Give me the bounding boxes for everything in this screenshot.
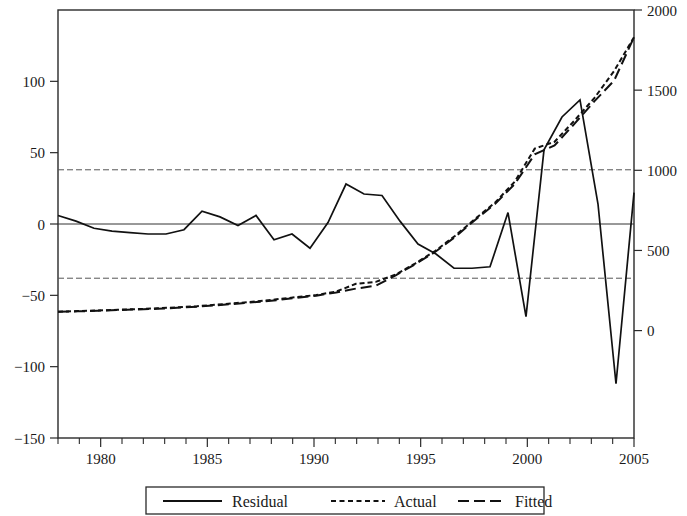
x-tick-label: 2000: [512, 451, 542, 467]
x-tick-label: 1985: [192, 451, 222, 467]
left-tick-label: −150: [14, 431, 45, 447]
right-tick-label: 0: [647, 323, 655, 339]
legend-label-actual: Actual: [394, 493, 437, 510]
x-axis-ticks: 198019851990199520002005: [58, 438, 649, 467]
x-tick-label: 1990: [299, 451, 329, 467]
left-tick-label: 50: [30, 145, 45, 161]
right-tick-label: 1000: [647, 163, 677, 179]
left-tick-label: 0: [38, 217, 46, 233]
x-tick-label: 1980: [86, 451, 116, 467]
x-tick-label: 1995: [406, 451, 436, 467]
chart-svg: −150−100−50050100 0500100015002000 19801…: [0, 0, 687, 516]
left-tick-label: −50: [22, 288, 45, 304]
series-line-residual: [58, 100, 634, 384]
right-tick-label: 2000: [647, 3, 677, 19]
right-axis-ticks: 0500100015002000: [634, 3, 677, 340]
residual-actual-fitted-chart: −150−100−50050100 0500100015002000 19801…: [0, 0, 687, 516]
right-tick-label: 1500: [647, 83, 677, 99]
left-tick-label: 100: [23, 74, 46, 90]
series-line-fitted: [58, 37, 634, 311]
left-axis-ticks: −150−100−50050100: [14, 74, 58, 447]
legend: Residual Actual Fitted: [146, 487, 552, 514]
legend-label-residual: Residual: [232, 493, 289, 510]
legend-label-fitted: Fitted: [515, 493, 552, 510]
x-tick-label: 2005: [619, 451, 649, 467]
right-tick-label: 500: [647, 243, 670, 259]
series-line-actual: [58, 37, 634, 311]
left-tick-label: −100: [14, 359, 45, 375]
